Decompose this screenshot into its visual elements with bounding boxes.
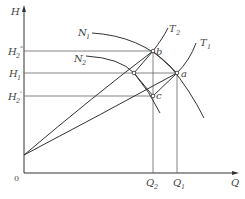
- axes: [24, 8, 236, 173]
- label-n1: N 1: [77, 27, 90, 41]
- svg-text:2: 2: [153, 183, 158, 191]
- x-axis-label: Q: [231, 177, 239, 188]
- label-n2: N 2: [73, 53, 86, 67]
- label-point-c: c: [156, 90, 162, 101]
- y-tick-h1: H 1: [8, 68, 21, 82]
- svg-text:1: 1: [17, 74, 21, 82]
- svg-text:": ": [20, 45, 23, 53]
- curve-n2: [86, 56, 160, 113]
- point-a: [175, 71, 179, 75]
- label-point-b: b: [156, 46, 162, 57]
- svg-text:1: 1: [86, 33, 90, 41]
- y-tick-h2-prime: H 2 ': [7, 90, 22, 105]
- pump-diagram: H 0 Q H 2 " H 1 H 2 ' Q 2 Q 1 N 1 N 2 T …: [0, 0, 245, 199]
- curve-t2: [24, 28, 168, 155]
- y-axis-arrow-icon: [22, 5, 26, 12]
- origin-label: 0: [14, 174, 19, 183]
- segment-to-c: [134, 73, 153, 96]
- point-b: [151, 49, 155, 53]
- svg-text:Q: Q: [146, 177, 154, 188]
- point-intersection: [132, 71, 136, 75]
- svg-text:2: 2: [15, 97, 20, 105]
- svg-text:2: 2: [175, 29, 180, 37]
- svg-text:2: 2: [81, 59, 86, 67]
- svg-text:Q: Q: [173, 177, 181, 188]
- svg-text:2: 2: [15, 52, 20, 60]
- y-axis-label: H: [10, 6, 20, 17]
- label-t2: T 2: [169, 23, 180, 37]
- svg-text:1: 1: [207, 43, 211, 51]
- svg-text:': ': [20, 90, 22, 98]
- y-tick-h2-double-prime: H 2 ": [7, 45, 23, 60]
- point-c: [151, 94, 155, 98]
- x-axis-arrow-icon: [232, 171, 239, 175]
- svg-text:1: 1: [181, 183, 185, 191]
- x-tick-q1: Q 1: [173, 177, 185, 191]
- curve-n1: [92, 33, 204, 118]
- x-tick-q2: Q 2: [146, 177, 158, 191]
- segment-to-b: [134, 51, 153, 73]
- label-point-a: a: [181, 68, 187, 79]
- label-t1: T 1: [200, 37, 211, 51]
